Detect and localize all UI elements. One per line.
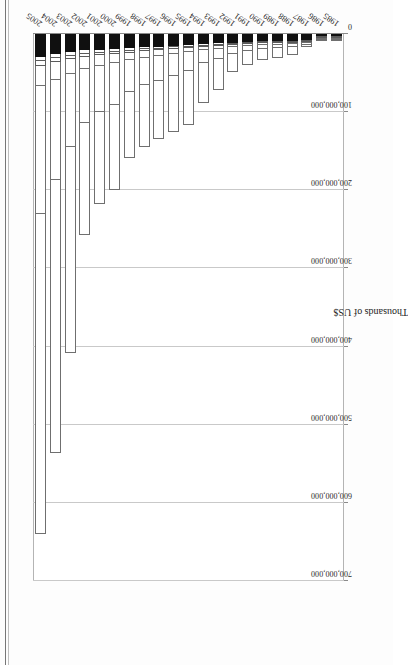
bar-segment-1988-s6 (287, 46, 298, 55)
bar-1985[interactable] (331, 34, 342, 37)
axis-tick (344, 33, 348, 34)
value-axis-tick-label: 600,000,000 (311, 491, 352, 500)
bar-1991[interactable] (242, 34, 253, 69)
bar-segment-2005-s5 (35, 85, 46, 214)
bar-segment-2000-s6 (109, 104, 120, 190)
bar-segment-2003-s6 (65, 146, 76, 353)
bar-segment-2003-s4 (65, 58, 76, 74)
bar-segment-1998-s5 (139, 57, 150, 85)
bar-segment-1986-s1 (316, 34, 327, 36)
bar-segment-1996-s1 (168, 34, 179, 46)
bar-segment-1998-s4 (139, 50, 150, 58)
bar-segment-1993-s1 (213, 34, 224, 43)
bar-1992[interactable] (227, 34, 238, 77)
bar-segment-2001-s6 (94, 111, 105, 205)
bar-segment-2001-s4 (94, 54, 105, 66)
bar-1994[interactable] (198, 34, 209, 108)
bar-segment-1999-s5 (124, 59, 135, 92)
bar-segment-1989-s1 (272, 34, 283, 41)
bar-2001[interactable] (94, 34, 105, 209)
axis-tick (344, 267, 348, 268)
bar-1993[interactable] (213, 34, 224, 95)
axis-tick (344, 346, 348, 347)
bar-segment-2002-s6 (79, 122, 90, 235)
bar-segment-1994-s6 (198, 62, 209, 103)
bar-segment-1994-s1 (198, 34, 209, 44)
bar-segment-1998-s1 (139, 34, 150, 47)
bar-segment-1987-s1 (301, 34, 312, 40)
bar-segment-1998-s6 (139, 84, 150, 147)
bar-segment-1992-s5 (227, 46, 238, 54)
axis-tick (344, 189, 348, 190)
bar-segment-2005-s1 (35, 34, 46, 57)
bar-1997[interactable] (153, 34, 164, 144)
bar-2005[interactable] (35, 34, 46, 539)
bar-1990[interactable] (257, 34, 268, 63)
bar-segment-2004-s4 (50, 61, 61, 80)
value-axis-tick-label: 200,000,000 (311, 178, 352, 187)
bar-segment-1992-s6 (227, 53, 238, 73)
value-axis-tick-label: 0 (348, 22, 352, 31)
bar-segment-1995-s5 (183, 52, 194, 72)
bar-segment-2003-s1 (65, 34, 76, 52)
value-axis-tick-label: 700,000,000 (311, 569, 352, 578)
bar-segment-2002-s5 (79, 68, 90, 123)
bar-segment-1997-s5 (153, 55, 164, 81)
bar-segment-2000-s1 (109, 34, 120, 49)
bar-2003[interactable] (65, 34, 76, 358)
value-axis-tick-label: 100,000,000 (311, 100, 352, 109)
bar-segment-1989-s6 (272, 47, 283, 58)
bar-segment-1991-s1 (242, 34, 253, 42)
bar-1989[interactable] (272, 34, 283, 62)
gridline (33, 580, 344, 581)
category-label-2005: 2005 (25, 11, 45, 29)
bar-segment-1988-s1 (287, 34, 298, 41)
bar-segment-2003-s5 (65, 73, 76, 147)
value-axis-title: Thousands of US$ (334, 307, 408, 318)
bar-segment-1999-s4 (124, 52, 135, 61)
bar-segment-1999-s1 (124, 34, 135, 48)
bar-segment-1997-s6 (153, 80, 164, 139)
bar-1996[interactable] (168, 34, 179, 137)
axis-tick (344, 111, 348, 112)
bar-1999[interactable] (124, 34, 135, 163)
gridline (33, 267, 344, 268)
bar-segment-2002-s1 (79, 34, 90, 50)
bar-segment-2000-s5 (109, 62, 120, 105)
bar-segment-2005-s4 (35, 65, 46, 87)
bar-1998[interactable] (139, 34, 150, 152)
bar-segment-1991-s6 (242, 50, 253, 65)
bar-segment-1993-s6 (213, 58, 224, 91)
bar-segment-1997-s1 (153, 34, 164, 47)
value-axis-tick-label: 400,000,000 (311, 335, 352, 344)
value-axis-tick-label: 300,000,000 (311, 256, 352, 265)
bar-segment-1994-s5 (198, 49, 209, 63)
bar-1986[interactable] (316, 34, 327, 40)
axis-tick (344, 502, 348, 503)
bar-segment-1990-s1 (257, 34, 268, 41)
bar-segment-2004-s5 (50, 79, 61, 181)
bar-1987[interactable] (301, 34, 312, 49)
bar-2004[interactable] (50, 34, 61, 458)
bar-2000[interactable] (109, 34, 120, 195)
bar-segment-1995-s6 (183, 70, 194, 125)
bar-segment-1995-s1 (183, 34, 194, 45)
bar-segment-1990-s6 (257, 48, 268, 60)
bar-segment-1996-s5 (168, 53, 179, 76)
bar-segment-2004-s1 (50, 34, 61, 54)
bar-segment-2004-s6 (50, 179, 61, 453)
bar-segment-2001-s5 (94, 65, 105, 112)
bar-1995[interactable] (183, 34, 194, 130)
bar-segment-1985-s1 (331, 34, 342, 36)
gridline (33, 502, 344, 503)
bar-1988[interactable] (287, 34, 298, 59)
bar-2002[interactable] (79, 34, 90, 240)
bar-segment-1993-s5 (213, 48, 224, 59)
bar-segment-2001-s1 (94, 34, 105, 50)
gridline (33, 346, 344, 347)
bar-segment-2005-s6 (35, 213, 46, 533)
bar-segment-1996-s6 (168, 76, 179, 132)
